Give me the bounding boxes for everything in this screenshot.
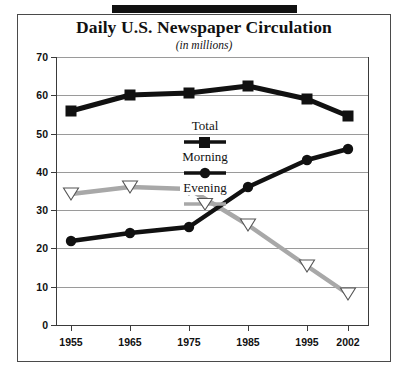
y-tick-label-30: 30 (20, 205, 48, 215)
y-tick-mark (51, 287, 56, 288)
gridline-20 (56, 248, 368, 249)
y-tick-label-50: 50 (20, 129, 48, 139)
y-tick-mark (51, 325, 56, 326)
y-tick-mark (51, 134, 56, 135)
x-tick-label-1975: 1975 (161, 337, 217, 348)
y-tick-mark (51, 95, 56, 96)
x-tick-label-2002: 2002 (320, 337, 376, 348)
triangle-marker-icon (178, 198, 232, 210)
legend-item-evening: Evening (145, 178, 265, 208)
chart-figure: Daily U.S. Newspaper Circulation (in mil… (0, 0, 407, 375)
legend-swatch-morning (178, 165, 232, 177)
y-axis-line (56, 57, 57, 326)
title-rule-bar (112, 5, 297, 13)
legend-item-morning: Morning (145, 147, 265, 177)
y-tick-label-70: 70 (20, 52, 48, 62)
x-tick-mark (348, 326, 349, 331)
legend-label-morning: Morning (179, 150, 231, 164)
y-tick-label-10: 10 (20, 282, 48, 292)
y-tick-mark (51, 210, 56, 211)
x-tick-mark (248, 326, 249, 331)
gridline-30 (56, 210, 368, 211)
y-tick-label-0: 0 (20, 320, 48, 330)
chart-subtitle: (in millions) (18, 38, 390, 52)
y-tick-label-20: 20 (20, 243, 48, 253)
legend-swatch-evening (178, 196, 232, 208)
gridline-60 (56, 95, 368, 96)
gridline-10 (56, 287, 368, 288)
x-tick-mark (130, 326, 131, 331)
y-tick-label-60: 60 (20, 90, 48, 100)
x-tick-mark (307, 326, 308, 331)
legend-label-total: Total (189, 119, 222, 133)
y-tick-mark (51, 172, 56, 173)
y-tick-label-40: 40 (20, 167, 48, 177)
legend-item-total: Total (145, 116, 265, 146)
y-tick-mark (51, 57, 56, 58)
x-tick-label-1965: 1965 (102, 337, 158, 348)
legend-swatch-total (178, 134, 232, 146)
x-tick-mark (71, 326, 72, 331)
legend-label-evening: Evening (180, 181, 229, 195)
x-tick-label-1955: 1955 (43, 337, 99, 348)
plot-right-border (368, 57, 369, 326)
y-tick-mark (51, 248, 56, 249)
gridline-70 (56, 57, 368, 58)
x-tick-mark (189, 326, 190, 331)
x-axis-line (56, 325, 369, 326)
page-title: Daily U.S. Newspaper Circulation (18, 17, 390, 37)
x-tick-label-1985: 1985 (220, 337, 276, 348)
title-block: Daily U.S. Newspaper Circulation (in mil… (18, 17, 390, 52)
